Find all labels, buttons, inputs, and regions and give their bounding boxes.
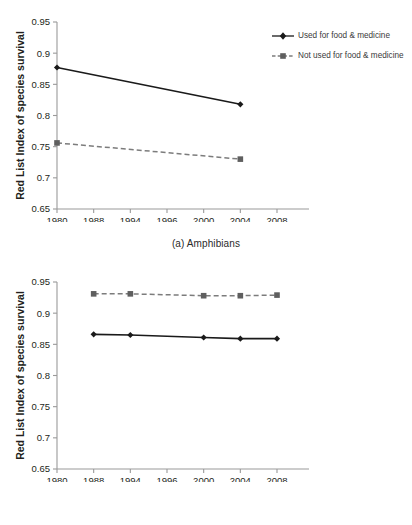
x-tick-label: 1980 bbox=[46, 215, 67, 222]
data-point-marker bbox=[237, 336, 243, 342]
y-tick-label: 0.8 bbox=[37, 110, 50, 121]
data-point-marker bbox=[201, 293, 207, 299]
y-axis-title: Red List Index of species survival bbox=[14, 31, 26, 200]
y-tick-label: 0.85 bbox=[32, 339, 51, 350]
x-tick-label: 1980 bbox=[46, 475, 67, 482]
y-tick-label: 0.7 bbox=[37, 172, 50, 183]
data-point-marker bbox=[128, 291, 134, 297]
data-point-marker bbox=[91, 331, 97, 337]
figure-amphibians: 0.650.70.750.80.850.90.95198019881994199… bbox=[0, 0, 412, 260]
x-tick-label: 1996 bbox=[156, 475, 177, 482]
chart-svg-birds: 0.650.70.750.80.850.90.95198019881994199… bbox=[0, 260, 412, 482]
legend-item-not-used[interactable]: Not used for food & medicine bbox=[272, 50, 404, 61]
plot-area-birds: 0.650.70.750.80.850.90.95198019881994199… bbox=[0, 260, 412, 482]
y-tick-label: 0.75 bbox=[32, 141, 51, 152]
data-point-marker bbox=[91, 291, 97, 297]
x-tick-label: 2008 bbox=[266, 215, 287, 222]
x-tick-label: 2004 bbox=[230, 475, 251, 482]
data-point-marker bbox=[238, 156, 244, 162]
x-tick-label: 2008 bbox=[266, 475, 287, 482]
x-tick-label: 2000 bbox=[193, 475, 214, 482]
figure-birds: 0.650.70.750.80.850.90.95198019881994199… bbox=[0, 260, 412, 525]
legend-marker-square-icon bbox=[272, 51, 294, 61]
y-tick-label: 0.7 bbox=[37, 432, 50, 443]
y-tick-label: 0.85 bbox=[32, 79, 51, 90]
y-tick-label: 0.8 bbox=[37, 370, 50, 381]
y-axis-title: Red List Index of species survival bbox=[14, 291, 26, 460]
legend-marker-diamond-icon bbox=[272, 31, 294, 41]
y-tick-label: 0.9 bbox=[37, 48, 50, 59]
y-tick-label: 0.95 bbox=[32, 16, 51, 27]
y-tick-label: 0.65 bbox=[32, 463, 51, 474]
data-point-marker bbox=[201, 334, 207, 340]
x-tick-label: 1996 bbox=[156, 215, 177, 222]
series-line bbox=[57, 143, 240, 159]
data-point-marker bbox=[54, 64, 60, 70]
series-line bbox=[94, 294, 277, 296]
series-line bbox=[57, 68, 240, 105]
x-tick-label: 2000 bbox=[193, 215, 214, 222]
legend-item-used[interactable]: Used for food & medicine bbox=[272, 30, 404, 41]
data-point-marker bbox=[274, 336, 280, 342]
data-point-marker bbox=[127, 332, 133, 338]
x-tick-label: 1994 bbox=[120, 475, 141, 482]
y-tick-label: 0.9 bbox=[37, 308, 50, 319]
data-point-marker bbox=[238, 293, 244, 299]
data-point-marker bbox=[237, 101, 243, 107]
legend-label-used: Used for food & medicine bbox=[298, 30, 390, 41]
legend-label-not-used: Not used for food & medicine bbox=[298, 50, 404, 61]
y-tick-label: 0.75 bbox=[32, 401, 51, 412]
series-line bbox=[94, 334, 277, 338]
data-point-marker bbox=[54, 140, 60, 146]
x-tick-label: 1988 bbox=[83, 475, 104, 482]
x-tick-label: 1994 bbox=[120, 215, 141, 222]
legend-amphibians: Used for food & medicine Not used for fo… bbox=[272, 30, 404, 70]
data-point-marker bbox=[274, 292, 280, 298]
x-tick-label: 1988 bbox=[83, 215, 104, 222]
x-tick-label: 2004 bbox=[230, 215, 251, 222]
y-tick-label: 0.95 bbox=[32, 276, 51, 287]
caption-amphibians: (a) Amphibians bbox=[0, 238, 412, 249]
y-tick-label: 0.65 bbox=[32, 203, 51, 214]
